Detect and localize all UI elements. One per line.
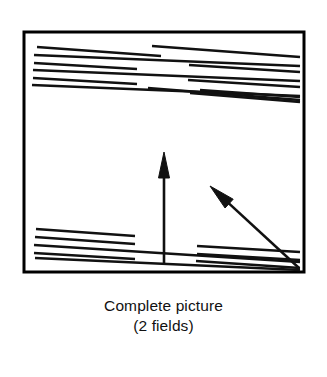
caption-line-secondary: (2 fields) — [0, 316, 327, 336]
complete-picture-figure: Complete picture (2 fields) — [0, 0, 327, 377]
figure-caption: Complete picture (2 fields) — [0, 296, 327, 336]
caption-line-primary: Complete picture — [0, 296, 327, 316]
picture-frame-illustration — [0, 0, 327, 290]
